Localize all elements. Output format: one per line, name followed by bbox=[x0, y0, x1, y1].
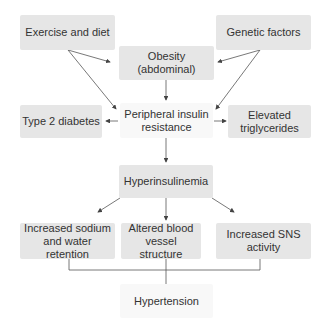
node-exercise-and-diet: Exercise and diet bbox=[20, 15, 115, 50]
node-peripheral-insulin-resistance: Peripheral insulin resistance bbox=[120, 103, 213, 138]
node-type-2-diabetes: Type 2 diabetes bbox=[20, 105, 102, 138]
node-hyperinsulinemia: Hyperinsulinemia bbox=[119, 165, 213, 198]
node-obesity: Obesity (abdominal) bbox=[119, 46, 214, 80]
node-sns-activity: Increased SNS activity bbox=[216, 223, 311, 259]
node-hypertension: Hypertension bbox=[120, 284, 213, 318]
node-blood-vessel-structure: Altered blood vessel structure bbox=[121, 223, 201, 259]
node-elevated-triglycerides: Elevated triglycerides bbox=[228, 105, 311, 138]
node-sodium-water-retention: Increased sodium and water retention bbox=[20, 223, 115, 259]
node-genetic-factors: Genetic factors bbox=[216, 15, 311, 50]
